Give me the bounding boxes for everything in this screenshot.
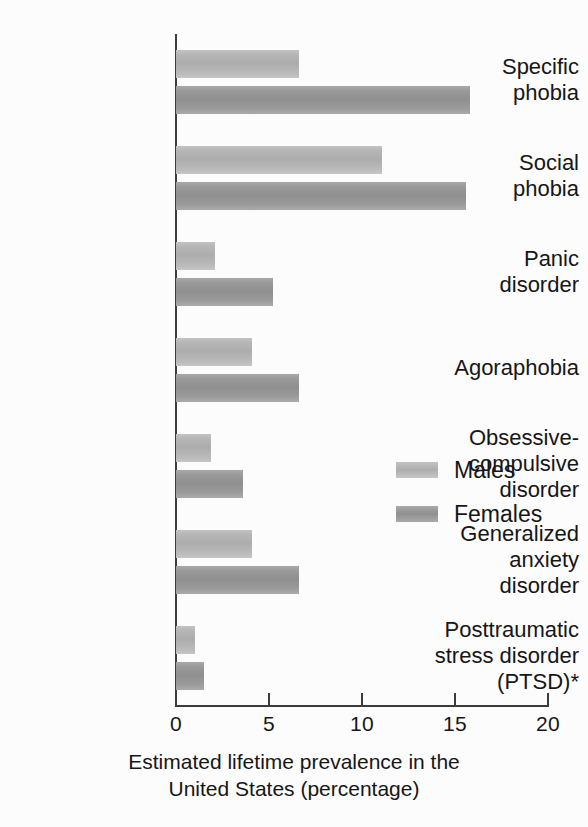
bar-fill: [176, 434, 211, 462]
chart-legend: Males Females: [396, 455, 542, 543]
bar-fill: [176, 470, 243, 498]
bar-fill: [176, 662, 204, 690]
bar-males: [176, 530, 252, 558]
legend-label-males: Males: [454, 457, 515, 484]
bar-fill: [176, 626, 195, 654]
bar-males: [176, 146, 382, 174]
legend-swatch-males-icon: [396, 462, 438, 478]
bar-fill: [176, 50, 299, 78]
bar-females: [176, 374, 299, 402]
x-axis-tick-label: 10: [350, 712, 374, 736]
category-label: Social phobia: [420, 150, 588, 202]
x-axis-tick-label: 20: [536, 712, 560, 736]
bar-fill: [176, 146, 382, 174]
x-axis-tick-label: 0: [170, 712, 182, 736]
bar-fill: [176, 374, 299, 402]
legend-swatch-females-icon: [396, 506, 438, 522]
bar-males: [176, 434, 211, 462]
bar-males: [176, 626, 195, 654]
legend-item-females[interactable]: Females: [396, 499, 542, 529]
legend-item-males[interactable]: Males: [396, 455, 542, 485]
category-label: Posttraumatic stress disorder (PTSD)*: [420, 617, 588, 695]
x-axis-tick: [268, 693, 270, 706]
category-label: Agoraphobia: [420, 355, 588, 381]
x-axis-title: Estimated lifetime prevalence in the Uni…: [0, 748, 588, 802]
x-axis-tick: [361, 693, 363, 706]
bar-females: [176, 278, 273, 306]
category-label: Specific phobia: [420, 54, 588, 106]
bar-females: [176, 662, 204, 690]
prevalence-bar-chart: Specific phobiaSocial phobiaPanic disord…: [0, 0, 588, 827]
bar-males: [176, 50, 299, 78]
bar-fill: [176, 278, 273, 306]
bar-fill: [176, 338, 252, 366]
x-axis-tick-label: 5: [263, 712, 275, 736]
bar-fill: [176, 566, 299, 594]
legend-label-females: Females: [454, 501, 542, 528]
bar-fill: [176, 242, 215, 270]
x-axis-tick-label: 15: [443, 712, 467, 736]
x-axis-tick: [175, 693, 177, 706]
bar-females: [176, 566, 299, 594]
bar-fill: [176, 530, 252, 558]
bar-males: [176, 242, 215, 270]
category-label: Panic disorder: [420, 246, 588, 298]
bar-males: [176, 338, 252, 366]
bar-females: [176, 470, 243, 498]
